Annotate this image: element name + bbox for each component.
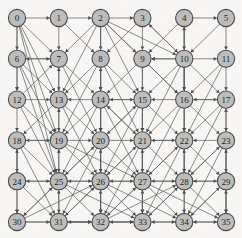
node-label: 26: [96, 177, 106, 187]
graph-edge-arrowhead: [193, 220, 196, 224]
graph-node-18[interactable]: 18: [8, 132, 25, 149]
graph-edge-arrowhead: [130, 220, 133, 224]
graph-node-16[interactable]: 16: [176, 91, 193, 108]
node-label: 10: [180, 54, 190, 64]
node-label: 30: [13, 217, 23, 227]
graph-node-3[interactable]: 3: [134, 9, 151, 26]
graph-edge-arrowhead: [57, 150, 61, 153]
node-label: 31: [54, 217, 63, 227]
graph-node-29[interactable]: 29: [217, 173, 234, 190]
graph-node-21[interactable]: 21: [134, 132, 151, 149]
edges-layer: [15, 16, 228, 224]
graph-node-11[interactable]: 11: [217, 50, 234, 67]
graph-edge-arrowhead: [214, 16, 217, 20]
graph-node-17[interactable]: 17: [217, 91, 234, 108]
graph-node-28[interactable]: 28: [176, 173, 193, 190]
graph-node-23[interactable]: 23: [217, 132, 234, 149]
graph-node-25[interactable]: 25: [50, 173, 67, 190]
node-label: 3: [140, 13, 145, 23]
graph-node-4[interactable]: 4: [176, 9, 193, 26]
graph-edge-arrowhead: [68, 98, 71, 102]
graph-edge-arrowhead: [15, 210, 19, 213]
graph-node-32[interactable]: 32: [92, 213, 109, 230]
node-label: 9: [140, 54, 145, 64]
graph-edge-arrowhead: [57, 190, 61, 193]
graph-edge-arrowhead: [193, 139, 196, 143]
graph-edge-arrowhead: [224, 109, 228, 112]
graph-canvas: 0123456789101112131415161718192021222324…: [0, 0, 242, 238]
node-label: 32: [96, 217, 105, 227]
graph-node-1[interactable]: 1: [50, 9, 67, 26]
graph-figure: 0123456789101112131415161718192021222324…: [0, 0, 242, 238]
graph-edge-arrowhead: [15, 128, 19, 131]
graph-node-6[interactable]: 6: [8, 50, 25, 67]
graph-node-34[interactable]: 34: [176, 213, 193, 230]
graph-edge-arrowhead: [141, 47, 145, 50]
node-label: 1: [57, 13, 62, 23]
graph-edge-arrowhead: [182, 169, 186, 172]
graph-edge-arrowhead: [88, 139, 91, 143]
node-label: 29: [222, 177, 232, 187]
node-label: 13: [54, 95, 64, 105]
node-label: 5: [224, 13, 229, 23]
graph-node-26[interactable]: 26: [92, 173, 109, 190]
graph-node-12[interactable]: 12: [8, 91, 25, 108]
graph-edge-arrowhead: [193, 179, 196, 183]
graph-edge-arrowhead: [214, 57, 217, 61]
graph-node-13[interactable]: 13: [50, 91, 67, 108]
node-label: 16: [180, 95, 190, 105]
node-label: 19: [54, 136, 64, 146]
graph-node-9[interactable]: 9: [134, 50, 151, 67]
graph-edge-arrowhead: [224, 210, 228, 213]
graph-edge-arrowhead: [88, 16, 91, 20]
graph-edge-arrowhead: [172, 179, 175, 183]
graph-node-22[interactable]: 22: [176, 132, 193, 149]
graph-edge-arrowhead: [172, 220, 175, 224]
graph-edge-arrowhead: [193, 98, 196, 102]
graph-node-27[interactable]: 27: [134, 173, 151, 190]
node-label: 34: [180, 217, 190, 227]
graph-edge-arrowhead: [47, 179, 50, 183]
graph-node-30[interactable]: 30: [8, 213, 25, 230]
node-label: 28: [180, 177, 190, 187]
graph-node-7[interactable]: 7: [50, 50, 67, 67]
graph-edge-arrowhead: [141, 150, 145, 153]
node-label: 17: [222, 95, 232, 105]
graph-node-35[interactable]: 35: [217, 213, 234, 230]
graph-edge-arrowhead: [130, 16, 133, 20]
graph-edge: [191, 24, 220, 52]
graph-edge-arrowhead: [152, 57, 155, 61]
node-label: 2: [98, 13, 103, 23]
graph-edge-arrowhead: [99, 128, 103, 131]
node-label: 4: [182, 13, 187, 23]
graph-edge-arrowhead: [47, 98, 50, 102]
node-label: 27: [138, 177, 148, 187]
node-label: 33: [138, 217, 148, 227]
graph-edge-arrowhead: [47, 57, 50, 61]
graph-edge-arrowhead: [130, 139, 133, 143]
node-label: 6: [15, 54, 20, 64]
graph-node-5[interactable]: 5: [217, 9, 234, 26]
graph-edge-arrowhead: [47, 16, 50, 20]
graph-edge-arrowhead: [57, 68, 61, 71]
graph-node-14[interactable]: 14: [92, 91, 109, 108]
graph-node-33[interactable]: 33: [134, 213, 151, 230]
graph-edge-arrowhead: [224, 47, 228, 50]
graph-node-8[interactable]: 8: [92, 50, 109, 67]
graph-edge-arrowhead: [182, 27, 186, 30]
graph-node-31[interactable]: 31: [50, 213, 67, 230]
graph-edge-arrowhead: [182, 190, 186, 193]
node-label: 21: [138, 136, 147, 146]
node-label: 0: [15, 13, 20, 23]
graph-edge-arrowhead: [141, 190, 145, 193]
graph-node-2[interactable]: 2: [92, 9, 109, 26]
graph-edge-arrowhead: [110, 98, 113, 102]
graph-edge-arrowhead: [152, 139, 155, 143]
graph-node-19[interactable]: 19: [50, 132, 67, 149]
graph-node-15[interactable]: 15: [134, 91, 151, 108]
graph-node-20[interactable]: 20: [92, 132, 109, 149]
graph-edge-arrowhead: [15, 87, 19, 90]
graph-node-24[interactable]: 24: [8, 173, 25, 190]
graph-node-10[interactable]: 10: [176, 50, 193, 67]
graph-node-0[interactable]: 0: [8, 9, 25, 26]
